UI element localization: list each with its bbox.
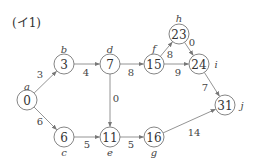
- node-label: j: [238, 100, 243, 111]
- node-label: i: [214, 59, 217, 70]
- edge-weight-a-b: 3: [37, 69, 43, 80]
- node-c: 6c: [54, 127, 74, 158]
- edge-weight-f-i: 9: [175, 67, 181, 78]
- node-value: 3: [60, 58, 68, 72]
- node-label: b: [61, 44, 67, 55]
- nodes-layer: 0a3b6c7d11e15f16g23h24i31j: [17, 13, 244, 158]
- node-label: d: [107, 44, 113, 55]
- edge-weight-c-e: 5: [84, 139, 90, 150]
- node-value: 15: [146, 58, 161, 72]
- node-f: 15f: [144, 43, 164, 75]
- node-label: g: [151, 147, 157, 158]
- node-d: 7d: [100, 44, 120, 75]
- node-label: h: [176, 13, 182, 24]
- node-i: 24i: [189, 54, 218, 74]
- node-b: 3b: [54, 44, 74, 75]
- node-value: 31: [217, 99, 232, 113]
- edge-weight-d-e: 0: [113, 93, 119, 104]
- edge-weight-h-i: 0: [189, 37, 195, 48]
- node-label: a: [24, 81, 30, 92]
- node-e: 11e: [100, 127, 120, 158]
- node-label: f: [151, 43, 158, 54]
- node-label: e: [107, 147, 113, 158]
- node-value: 7: [106, 58, 114, 72]
- node-value: 16: [146, 131, 161, 145]
- node-value: 6: [60, 131, 68, 145]
- node-value: 23: [171, 28, 186, 42]
- edge-weight-b-d: 4: [83, 67, 89, 78]
- node-h: 23h: [169, 13, 189, 45]
- edge-weight-f-h: 8: [167, 49, 173, 60]
- edge-weight-d-f: 8: [128, 67, 134, 78]
- node-label: c: [61, 147, 67, 158]
- edge-weight-i-j: 7: [202, 82, 208, 93]
- node-a: 0a: [17, 81, 37, 111]
- directed-graph: 3645805809714 0a3b6c7d11e15f16g23h24i31j: [0, 0, 257, 167]
- node-value: 0: [23, 94, 31, 108]
- node-g: 16g: [144, 127, 164, 158]
- edge-weight-a-c: 6: [37, 116, 43, 127]
- node-value: 11: [102, 131, 117, 145]
- edge-weight-e-g: 5: [128, 139, 134, 150]
- node-value: 24: [191, 58, 207, 72]
- edge-weight-g-j: 14: [188, 127, 201, 138]
- node-j: 31j: [215, 95, 244, 115]
